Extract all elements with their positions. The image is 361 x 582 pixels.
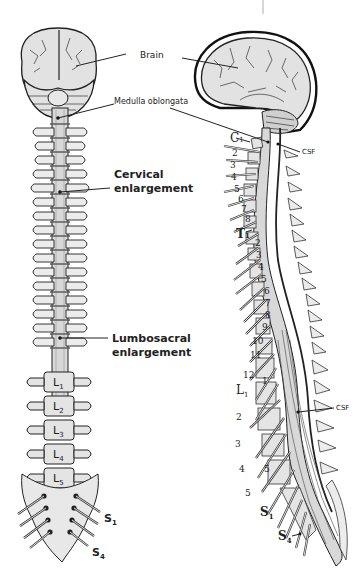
label-vertebra-1: 1: [262, 376, 268, 386]
label-brain: Brain: [140, 50, 164, 60]
svg-text:3: 3: [235, 439, 241, 449]
svg-text:8: 8: [245, 214, 251, 224]
svg-text:3: 3: [230, 160, 236, 170]
label-csf-lower: CSF: [336, 404, 349, 412]
svg-text:3: 3: [256, 250, 262, 260]
label-csf-upper: CSF: [302, 148, 315, 156]
svg-text:10: 10: [252, 336, 264, 346]
label-cervical-enlargement-1: Cervical: [114, 168, 164, 181]
brain-posterior: [21, 28, 96, 118]
label-lumbosacral-enlargement-1: Lumbosacral: [112, 332, 191, 345]
lumbar-numbers-lateral: 2 3 4 5: [235, 412, 251, 498]
spinal-cord-diagram: Brain Medulla oblongata Cervical enlarge…: [0, 0, 361, 582]
svg-text:2: 2: [232, 148, 238, 158]
svg-text:2: 2: [255, 238, 261, 248]
svg-text:4: 4: [239, 464, 245, 474]
label-vertebra-5: 5: [264, 464, 270, 474]
svg-text:5: 5: [234, 184, 240, 194]
vertebral-column-posterior: [18, 108, 100, 562]
svg-text:9: 9: [262, 322, 268, 332]
svg-text:7: 7: [265, 298, 271, 308]
svg-text:11: 11: [250, 350, 261, 360]
label-medulla-oblongata: Medulla oblongata: [114, 97, 188, 106]
svg-text:4: 4: [231, 172, 237, 182]
svg-text:12: 12: [243, 370, 254, 380]
label-s4-posterior: S4: [92, 546, 105, 561]
svg-text:8: 8: [265, 310, 271, 320]
label-s1-posterior: S1: [104, 512, 117, 527]
label-t1: T1: [236, 227, 250, 241]
label-lumbosacral-enlargement-2: enlargement: [112, 346, 191, 359]
svg-text:6: 6: [264, 286, 270, 296]
label-cervical-enlargement-2: enlargement: [114, 182, 193, 195]
label-l1: L1: [236, 383, 248, 399]
svg-text:6: 6: [238, 194, 244, 204]
svg-text:7: 7: [241, 204, 247, 214]
svg-text:5: 5: [261, 274, 267, 284]
svg-text:5: 5: [245, 488, 251, 498]
posterior-view: [18, 28, 126, 562]
svg-text:4: 4: [258, 262, 264, 272]
lateral-view: [170, 0, 347, 566]
svg-text:2: 2: [236, 412, 242, 422]
